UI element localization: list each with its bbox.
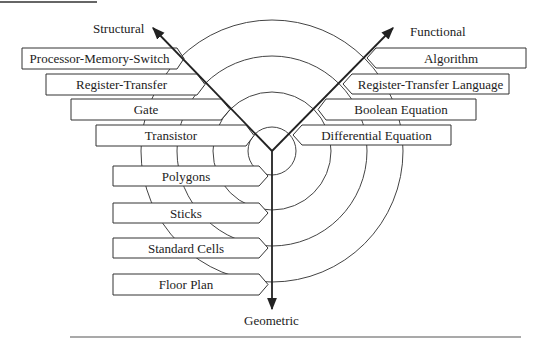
functional-level-label: Differential Equation: [302, 125, 451, 146]
functional-level-label: Boolean Equation: [326, 99, 476, 120]
geometric-level-label: Standard Cells: [113, 238, 259, 259]
structural-level-label: Transistor: [96, 125, 246, 146]
structural-level-label: Gate: [71, 99, 221, 120]
functional-level-label: Register-Transfer Language: [352, 74, 509, 95]
geometric-axis-label: Geometric: [244, 313, 299, 329]
geometric-level-label: Floor Plan: [113, 274, 259, 295]
structural-level-label: Processor-Memory-Switch: [22, 48, 177, 69]
geometric-level-label: Polygons: [113, 166, 259, 187]
functional-level-label: Algorithm: [376, 48, 526, 69]
structural-level-label: Register-Transfer: [46, 74, 197, 95]
functional-axis-label: Functional: [410, 24, 466, 40]
structural-axis-label: Structural: [93, 21, 144, 37]
geometric-level-label: Sticks: [113, 203, 259, 224]
